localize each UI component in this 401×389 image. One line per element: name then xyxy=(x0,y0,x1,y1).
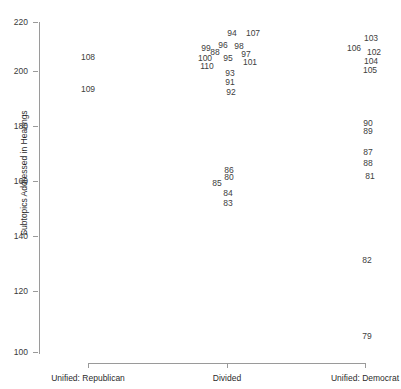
data-point-label: 87 xyxy=(363,148,372,157)
data-point-label: 94 xyxy=(227,29,236,38)
y-axis-tick xyxy=(33,71,38,72)
x-axis-tick xyxy=(365,363,366,368)
data-point-label: 80 xyxy=(224,173,233,182)
data-point-label: 89 xyxy=(363,127,372,136)
x-axis-tick-label: Divided xyxy=(213,373,241,383)
data-point-label: 83 xyxy=(223,199,232,208)
y-axis-tick-label: 100 xyxy=(0,348,28,357)
x-axis-tick xyxy=(227,363,228,368)
y-axis-tick xyxy=(33,291,38,292)
x-axis-tick xyxy=(88,363,89,368)
y-axis-tick xyxy=(33,352,38,353)
data-point-label: 85 xyxy=(212,179,221,188)
data-point-label: 110 xyxy=(200,62,214,71)
y-axis-tick xyxy=(33,22,38,23)
data-point-label: 84 xyxy=(223,189,232,198)
y-axis-tick-label: 200 xyxy=(0,67,28,76)
y-axis-tick xyxy=(33,181,38,182)
data-point-label: 95 xyxy=(223,54,232,63)
data-point-label: 103 xyxy=(364,34,378,43)
data-point-label: 108 xyxy=(81,53,95,62)
data-point-label: 107 xyxy=(246,29,260,38)
y-axis-line xyxy=(39,22,40,354)
y-axis-title: Subtopics Addressed in Hearings xyxy=(19,83,29,263)
data-point-label: 88 xyxy=(363,159,372,168)
data-point-label: 109 xyxy=(81,85,95,94)
data-point-label: 101 xyxy=(243,58,257,67)
data-point-label: 106 xyxy=(347,44,361,53)
data-point-label: 82 xyxy=(362,256,371,265)
data-point-label: 105 xyxy=(363,66,377,75)
y-axis-tick xyxy=(33,236,38,237)
y-axis-tick-label: 220 xyxy=(0,18,28,27)
x-axis-tick-label: Unified: Republican xyxy=(51,373,125,383)
scatter-plot-figure: 220200180160140120100 Subtopics Addresse… xyxy=(0,0,401,389)
data-point-label: 79 xyxy=(362,332,371,341)
y-axis-tick xyxy=(33,126,38,127)
data-point-label: 91 xyxy=(225,78,234,87)
data-point-label: 81 xyxy=(365,172,374,181)
y-axis-tick-label: 120 xyxy=(0,287,28,296)
data-point-label: 92 xyxy=(226,88,235,97)
x-axis-tick-label: Unified: Democrat xyxy=(331,373,399,383)
